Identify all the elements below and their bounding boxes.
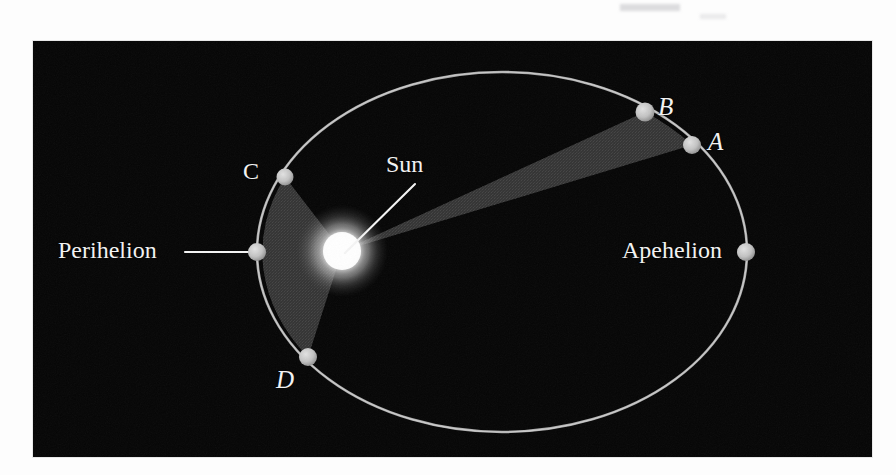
orbit-diagram-svg (33, 41, 872, 457)
orbit-diagram-plate: B A C D Sun Perihelion Apehelion (33, 41, 872, 457)
figure-root: B A C D Sun Perihelion Apehelion (0, 0, 896, 475)
scan-artifact-smudge (620, 4, 680, 11)
plate-grain (33, 41, 872, 457)
scan-artifact-smudge-secondary (700, 14, 726, 19)
